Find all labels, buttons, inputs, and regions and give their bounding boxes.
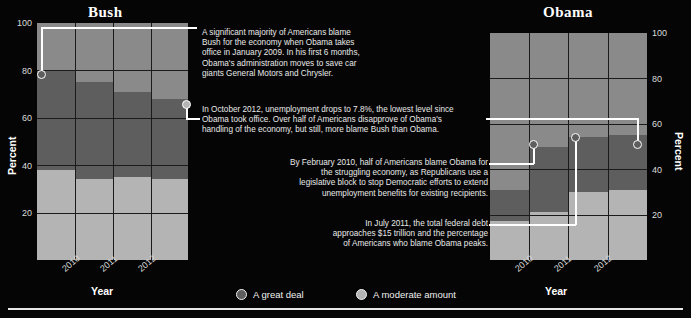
obama-ytick-80: 80 (652, 74, 662, 84)
obama-ytick-60: 60 (652, 119, 662, 129)
obama-seg-great-3 (568, 137, 608, 192)
obama-seg-great-2 (529, 147, 568, 213)
legend-label-great-deal: A great deal (253, 289, 304, 300)
bush-ytick-80: 80 (0, 66, 32, 76)
obama-gridline-h-20 (490, 215, 647, 216)
callout-dot-obama-2011 (571, 133, 580, 142)
bush-seg-great-1 (37, 70, 75, 170)
bush-plot-area (37, 23, 188, 260)
obama-gridline-v-2012 (608, 33, 609, 260)
callout-dot-bush-2012 (182, 100, 191, 109)
leader-anno1-vertical (41, 27, 43, 75)
footer-divider (8, 308, 683, 310)
bush-ytick-20: 20 (0, 208, 32, 218)
obama-seg-moderate-1 (490, 221, 529, 260)
leader-anno4-vertical (575, 141, 577, 225)
callout-dot-obama-2012 (633, 140, 642, 149)
panel-title-bush: Bush (88, 4, 123, 21)
bush-gridline-v-2010 (75, 23, 76, 260)
obama-yaxis-title: Percent (673, 132, 685, 171)
obama-gridline-h-80 (490, 78, 647, 79)
obama-xaxis-title: Year (545, 285, 567, 297)
bush-seg-moderate-4 (151, 179, 188, 260)
obama-seg-great-1 (490, 190, 529, 222)
leader-anno2-vertical (186, 108, 188, 119)
anno-bush-2009: A significant majority of Americans blam… (202, 28, 382, 79)
bush-gridline-v-2012 (151, 23, 152, 260)
leader-anno3-vertical (533, 148, 535, 164)
bush-gridline-h-60 (37, 118, 188, 119)
obama-ytick-40: 40 (652, 165, 662, 175)
anno-feb-2010: By February 2010, half of Americans blam… (196, 158, 488, 199)
legend-swatch-great-deal-icon (236, 289, 247, 300)
bush-seg-moderate-3 (113, 177, 151, 260)
obama-seg-moderate-2 (529, 212, 568, 260)
anno-oct-2012: In October 2012, unemployment drops to 7… (202, 105, 490, 136)
leader-anno2-horizontal (186, 118, 200, 120)
leader-anno2-right-horizontal (486, 118, 638, 120)
callout-dot-bush-2009 (37, 70, 46, 79)
infographic-root: Bush 100 80 60 40 20 2010 2011 2012 Year… (0, 0, 691, 318)
obama-plot-area (490, 33, 647, 260)
obama-gridline-v-2011 (568, 33, 569, 260)
obama-ytick-20: 20 (652, 210, 662, 220)
obama-ytick-100: 100 (652, 28, 667, 38)
bush-xaxis-title: Year (91, 285, 113, 297)
anno-jul-2011: In July 2011, the total federal debt app… (196, 219, 488, 250)
callout-dot-obama-2010 (529, 140, 538, 149)
bush-gridline-v-2011 (113, 23, 114, 260)
bush-ytick-100: 100 (0, 18, 32, 28)
bush-yaxis-title: Percent (6, 136, 18, 175)
obama-seg-moderate-4 (608, 190, 647, 260)
bush-ytick-60: 60 (0, 113, 32, 123)
leader-anno4-horizontal (489, 224, 576, 226)
panel-title-obama: Obama (543, 4, 593, 21)
bush-seg-great-4 (151, 99, 188, 180)
bush-seg-moderate-2 (75, 179, 113, 260)
legend-swatch-moderate-amount-icon (356, 289, 367, 300)
obama-gridline-h-40 (490, 169, 647, 170)
legend-item-moderate-amount[interactable]: A moderate amount (356, 289, 456, 300)
obama-gridline-h-60 (490, 124, 647, 125)
bush-gridline-h-40 (37, 165, 188, 166)
leader-anno3-horizontal (489, 163, 534, 165)
bush-seg-moderate-1 (37, 170, 75, 260)
bush-gridline-h-80 (37, 70, 188, 71)
leader-anno1-horizontal (41, 27, 197, 29)
legend-item-great-deal[interactable]: A great deal (236, 289, 304, 300)
obama-seg-moderate-3 (568, 192, 608, 260)
bush-gridline-h-20 (37, 213, 188, 214)
legend-label-moderate-amount: A moderate amount (373, 289, 456, 300)
